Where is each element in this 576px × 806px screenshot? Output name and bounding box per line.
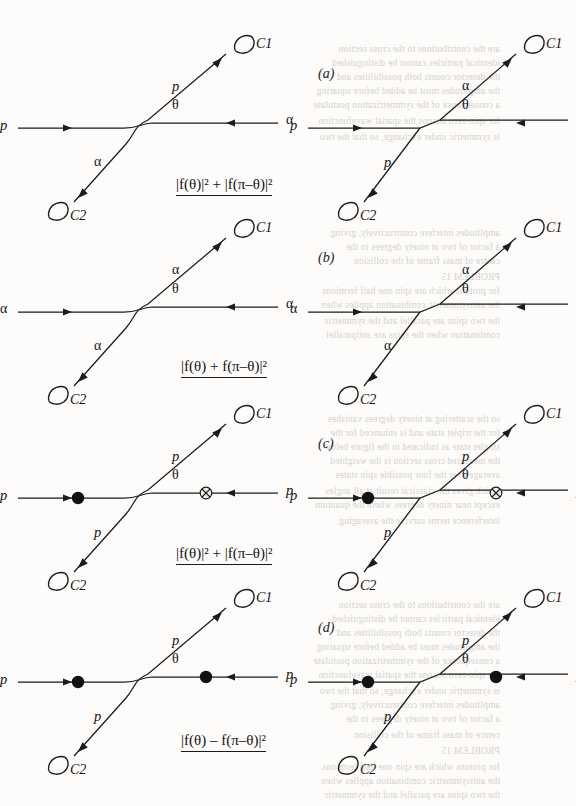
panel-d-right-label-detector-c1: C1 [546, 590, 562, 606]
detector-c1[interactable] [525, 590, 545, 608]
panel-d-right-label-out-up: p [462, 632, 469, 649]
figure-sheet: are the contributions to the cross secti… [0, 0, 576, 806]
spin-marker-up-right [490, 671, 502, 683]
detector-c2[interactable] [339, 757, 359, 775]
panel-d-right-label-out-down: p [384, 708, 391, 725]
panel-d-right-label-in-left: p [290, 671, 297, 688]
formula-d: |f(θ) – f(π–θ)|² [181, 732, 266, 752]
spin-marker-up-left [362, 676, 374, 688]
panel-d-right-label-angle: θ [462, 651, 469, 667]
arrowhead-out-up [502, 612, 512, 622]
arrowhead-in-left [353, 679, 362, 686]
arrowhead-out-down [368, 742, 378, 752]
panel-d-right-label-detector-c2: C2 [360, 762, 376, 778]
diagram-d-right [0, 0, 576, 806]
panel-label-d: (d) [318, 620, 334, 636]
